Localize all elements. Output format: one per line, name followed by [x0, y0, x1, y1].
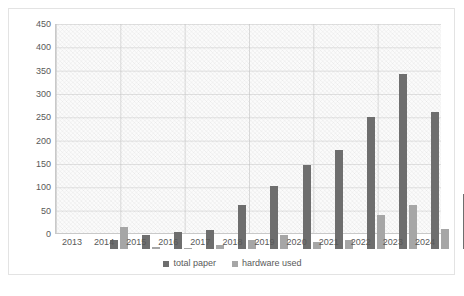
- x-axis-tick-label: 2014: [94, 238, 114, 247]
- bars-layer: [103, 39, 464, 249]
- bar-group: [360, 39, 392, 249]
- bar-group: [199, 39, 231, 249]
- x-axis-tick-label: 2019: [255, 238, 275, 247]
- bar-total-paper: [399, 74, 407, 249]
- x-axis-tick-label: 2018: [222, 238, 242, 247]
- bar-group: [135, 39, 167, 249]
- y-axis-tick-label: 0: [46, 230, 51, 239]
- y-axis-tick-label: 400: [36, 43, 51, 52]
- x-axis-tick-label: 2022: [351, 238, 371, 247]
- bar-group: [103, 39, 135, 249]
- chart-screenshot: 050100150200250300350400450 201320142015…: [0, 0, 464, 296]
- bar-total-paper: [431, 112, 439, 249]
- bar-group: [263, 39, 295, 249]
- x-axis-tick-label: 2023: [383, 238, 403, 247]
- bar-group: [328, 39, 360, 249]
- legend-label: total paper: [173, 259, 216, 268]
- x-axis: 2013201420152016201720182019202020212022…: [56, 238, 441, 252]
- bar-group: [167, 39, 199, 249]
- plot-area: [55, 24, 441, 234]
- bar-group: [392, 39, 424, 249]
- y-axis-tick-label: 450: [36, 20, 51, 29]
- x-axis-tick-label: 2024: [415, 238, 435, 247]
- legend-swatch-icon: [163, 261, 169, 267]
- y-axis-tick-label: 350: [36, 66, 51, 75]
- x-axis-tick-label: 2017: [190, 238, 210, 247]
- y-axis: 050100150200250300350400450: [9, 24, 51, 234]
- bar-total-paper: [367, 117, 375, 249]
- x-axis-tick-label: 2021: [319, 238, 339, 247]
- x-axis-tick-label: 2013: [62, 238, 82, 247]
- bar-total-paper: [335, 150, 343, 249]
- y-axis-tick-label: 250: [36, 113, 51, 122]
- y-axis-tick-label: 150: [36, 160, 51, 169]
- y-axis-tick-label: 300: [36, 90, 51, 99]
- legend-item[interactable]: total paper: [163, 259, 216, 268]
- legend-label: hardware used: [242, 259, 302, 268]
- x-axis-tick-label: 2020: [287, 238, 307, 247]
- bar-group: [456, 39, 464, 249]
- legend-item[interactable]: hardware used: [232, 259, 302, 268]
- y-axis-tick-label: 100: [36, 183, 51, 192]
- x-axis-tick-label: 2015: [126, 238, 146, 247]
- bar-group: [231, 39, 263, 249]
- y-axis-tick-label: 200: [36, 136, 51, 145]
- legend-swatch-icon: [232, 261, 238, 267]
- bar-group: [296, 39, 328, 249]
- x-axis-tick-label: 2016: [158, 238, 178, 247]
- chart-frame: 050100150200250300350400450 201320142015…: [8, 8, 455, 275]
- chart-legend: total paperhardware used: [9, 259, 456, 268]
- bar-hardware-used: [441, 229, 449, 249]
- bar-group: [424, 39, 456, 249]
- y-axis-tick-label: 50: [41, 206, 51, 215]
